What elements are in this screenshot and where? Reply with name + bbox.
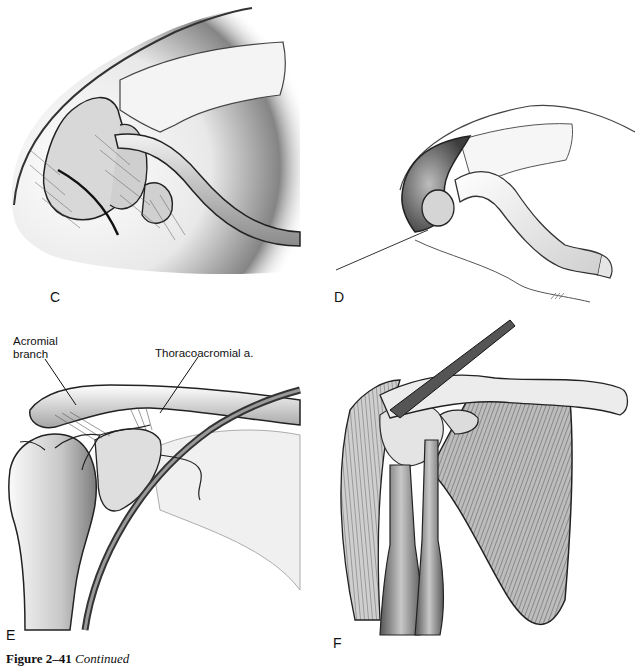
figure-caption: Figure 2–41 Continued — [6, 651, 129, 667]
illustration-c — [0, 0, 320, 305]
callout-acromial-branch: Acromial branch — [13, 335, 58, 361]
figure-continued: Continued — [75, 651, 129, 666]
panel-e: Acromial branch Thoracoacromial a. E — [0, 330, 320, 645]
panel-letter-e: E — [6, 628, 15, 642]
panel-c: C — [0, 0, 320, 305]
panel-letter-c: C — [50, 290, 60, 304]
illustration-f — [320, 300, 641, 645]
panel-f: F — [320, 300, 641, 645]
panel-letter-f: F — [333, 636, 342, 650]
callout-thoracoacromial-artery: Thoracoacromial a. — [155, 347, 253, 360]
illustration-d — [320, 80, 641, 310]
panel-d: D — [320, 80, 641, 310]
illustration-e — [0, 330, 320, 645]
figure-number: Figure 2–41 — [6, 651, 72, 666]
